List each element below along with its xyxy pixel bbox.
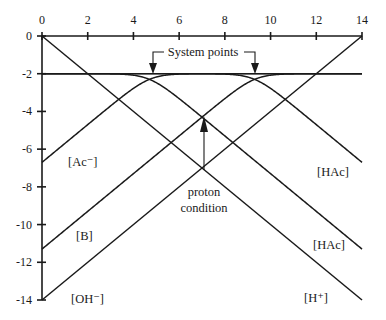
- y-tick-label: -4: [22, 104, 32, 118]
- arrow-down-icon: [251, 63, 259, 74]
- x-tick-label: 8: [222, 13, 228, 27]
- system-points-label: System points: [168, 45, 239, 59]
- proton-condition-label-2: condition: [180, 201, 228, 215]
- label-h-plus: [H⁺]: [304, 291, 328, 305]
- proton-condition-annotation: proton condition: [180, 116, 228, 215]
- y-tick-label: -12: [16, 255, 32, 269]
- arrow-down-icon: [149, 63, 157, 74]
- y-tick-label: -14: [16, 293, 32, 307]
- x-tick-label: 14: [356, 13, 368, 27]
- y-tick-label: -10: [16, 218, 32, 232]
- x-tick-label: 12: [310, 13, 322, 27]
- y-tick-label: -2: [22, 67, 32, 81]
- y-axis: 0-2-4-6-8-10-12-14: [16, 29, 46, 307]
- label-ac-minus: [Ac⁻]: [68, 155, 98, 169]
- y-tick-label: -8: [22, 180, 32, 194]
- label-hac-upper: [HAc]: [317, 165, 349, 179]
- label-oh-minus: [OH⁻]: [71, 292, 104, 306]
- x-tick-label: 10: [265, 13, 277, 27]
- label-hac-lower: [HAc]: [313, 238, 345, 252]
- proton-condition-label-1: proton: [188, 185, 221, 199]
- x-tick-label: 2: [85, 13, 91, 27]
- x-axis: 02468101214: [39, 13, 368, 40]
- y-tick-label: -6: [22, 142, 32, 156]
- y-tick-label: 0: [26, 29, 32, 43]
- label-b: [B]: [76, 229, 93, 243]
- x-tick-label: 6: [176, 13, 182, 27]
- x-tick-label: 0: [39, 13, 45, 27]
- x-tick-label: 4: [130, 13, 136, 27]
- system-points-annotation: System points: [149, 45, 259, 74]
- log-concentration-diagram: 02468101214 0-2-4-6-8-10-12-14 [Ac⁻] [B]…: [0, 0, 386, 320]
